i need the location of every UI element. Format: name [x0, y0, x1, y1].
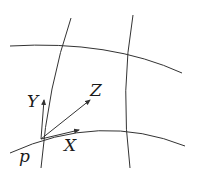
label-z: Z: [90, 82, 102, 99]
bottom-horizontal-curve: [10, 131, 185, 153]
label-y: Y: [27, 93, 38, 110]
diagram-canvas: Y Z X p: [0, 0, 197, 182]
label-p: p: [19, 148, 30, 165]
label-x: X: [64, 137, 76, 154]
top-horizontal-curve: [10, 45, 182, 73]
vector-y-arrow: [41, 100, 44, 139]
right-vertical-curve: [126, 15, 133, 168]
